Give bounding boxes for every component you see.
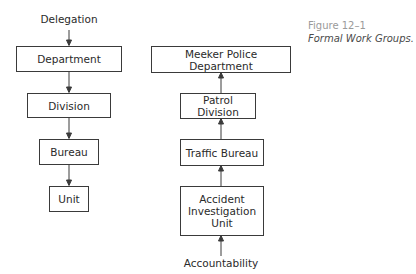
division-box: Division <box>27 93 111 118</box>
patrol-division-box: Patrol Division <box>180 93 256 119</box>
delegation-label: Delegation <box>29 13 109 25</box>
department-box: Department <box>16 46 122 72</box>
figure-number: Figure 12–1 <box>308 20 414 33</box>
meeker-police-department-box: Meeker Police Department <box>151 46 291 73</box>
accident-investigation-unit-box: Accident Investigation Unit <box>180 186 264 236</box>
accountability-label: Accountability <box>176 257 266 269</box>
figure-title: Formal Work Groups. <box>308 33 414 46</box>
traffic-bureau-box: Traffic Bureau <box>180 139 264 166</box>
bureau-box: Bureau <box>39 139 99 165</box>
unit-box: Unit <box>49 186 89 212</box>
figure-caption: Figure 12–1 Formal Work Groups. <box>308 20 414 45</box>
